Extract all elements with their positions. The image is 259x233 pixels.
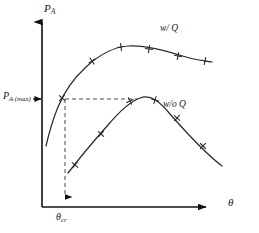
curve-label-with-q: w/ Q — [160, 23, 178, 33]
x-tick-label-subscript: cr — [61, 216, 67, 223]
y-axis-title: PA — [44, 2, 55, 14]
y-axis-tick-label-pa-max: PA (max) — [3, 90, 31, 101]
x-axis-tick-label-theta-cr: θcr — [56, 211, 67, 222]
curve-label-without-q: w/o Q — [163, 99, 186, 109]
y-axis-title-subscript: A — [51, 7, 56, 16]
y-axis-title-main: P — [44, 2, 51, 14]
curve-without-q — [68, 97, 222, 173]
curve-with-q — [46, 46, 212, 146]
y-tick-label-subscript: A (max) — [9, 95, 31, 102]
x-axis-title: θ — [228, 196, 233, 208]
figure-container: PA θ PA (max) θcr w/ Q w/o Q — [0, 0, 259, 233]
chart-canvas — [0, 0, 259, 233]
